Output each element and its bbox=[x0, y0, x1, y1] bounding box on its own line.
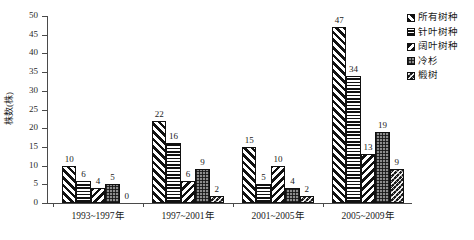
bar bbox=[346, 76, 360, 203]
x-axis-category-label: 1993~1997年 bbox=[53, 211, 143, 221]
y-tick-label: 35 bbox=[16, 67, 38, 76]
x-tick bbox=[53, 203, 54, 207]
y-tick bbox=[42, 203, 47, 204]
y-tick-label: 40 bbox=[16, 48, 38, 57]
x-axis-category-label: 2005~2009年 bbox=[323, 211, 413, 221]
legend-label: 针叶树种 bbox=[418, 28, 458, 37]
bar-value-label: 9 bbox=[386, 158, 408, 167]
y-tick-label: 0 bbox=[16, 198, 38, 207]
y-tick bbox=[42, 110, 47, 111]
y-tick-label: 5 bbox=[16, 179, 38, 188]
legend-swatch-icon bbox=[407, 14, 415, 22]
y-tick bbox=[42, 166, 47, 167]
bar bbox=[256, 184, 270, 203]
x-axis-category-label: 2001~2005年 bbox=[233, 211, 323, 221]
y-tick bbox=[42, 147, 47, 148]
legend-item: 冷杉 bbox=[407, 55, 458, 68]
legend-label: 冷杉 bbox=[418, 57, 438, 66]
legend-swatch-icon bbox=[407, 72, 415, 80]
legend-swatch-icon bbox=[407, 57, 415, 65]
bar-value-label: 47 bbox=[328, 16, 350, 25]
bar bbox=[332, 27, 346, 203]
bar bbox=[181, 181, 195, 203]
legend-item: 阔叶树种 bbox=[407, 40, 458, 53]
bar-group: 2216692 bbox=[152, 16, 230, 203]
bar-group: 1551042 bbox=[242, 16, 320, 203]
bar-value-label: 10 bbox=[58, 155, 80, 164]
legend-item: 所有树种 bbox=[407, 11, 458, 24]
y-tick bbox=[42, 184, 47, 185]
bar bbox=[390, 169, 404, 203]
bar-value-label: 10 bbox=[267, 155, 289, 164]
bar-group: 473413199 bbox=[332, 16, 410, 203]
bar-value-label: 34 bbox=[342, 65, 364, 74]
x-axis-line bbox=[47, 203, 412, 204]
bar-value-label: 9 bbox=[191, 158, 213, 167]
y-tick-label: 20 bbox=[16, 123, 38, 132]
legend-item: 针叶树种 bbox=[407, 26, 458, 39]
bar-value-label: 2 bbox=[206, 185, 228, 194]
bar-chart: 株数(株) 50454035302520151050 1064502216692… bbox=[0, 0, 474, 240]
bar-group: 106450 bbox=[62, 16, 140, 203]
y-tick bbox=[42, 53, 47, 54]
bar-value-label: 15 bbox=[238, 136, 260, 145]
y-tick-label: 30 bbox=[16, 86, 38, 95]
chart-legend: 所有树种针叶树种阔叶树种冷杉椴树 bbox=[407, 11, 458, 84]
y-tick-label: 45 bbox=[16, 30, 38, 39]
legend-swatch-icon bbox=[407, 43, 415, 51]
legend-label: 所有树种 bbox=[418, 13, 458, 22]
bar-value-label: 19 bbox=[371, 121, 393, 130]
bar-value-label: 5 bbox=[101, 173, 123, 182]
legend-label: 阔叶树种 bbox=[418, 42, 458, 51]
x-tick bbox=[323, 203, 324, 207]
bar-value-label: 0 bbox=[116, 192, 138, 201]
legend-swatch-icon bbox=[407, 28, 415, 36]
y-tick-label: 25 bbox=[16, 105, 38, 114]
y-tick-label: 10 bbox=[16, 161, 38, 170]
bar bbox=[375, 132, 389, 203]
legend-item: 椴树 bbox=[407, 69, 458, 82]
x-axis-category-label: 1997~2001年 bbox=[143, 211, 233, 221]
y-tick bbox=[42, 35, 47, 36]
bar bbox=[210, 196, 224, 203]
plot-area: 10645022166921551042473413199 bbox=[48, 16, 412, 203]
bar-value-label: 16 bbox=[162, 132, 184, 141]
bar bbox=[91, 188, 105, 203]
bar bbox=[300, 196, 314, 203]
bar-value-label: 22 bbox=[148, 110, 170, 119]
y-tick bbox=[42, 16, 47, 17]
bar bbox=[361, 154, 375, 203]
y-tick bbox=[42, 72, 47, 73]
y-tick-label: 50 bbox=[16, 11, 38, 20]
x-tick bbox=[233, 203, 234, 207]
x-tick bbox=[143, 203, 144, 207]
bar-value-label: 2 bbox=[296, 185, 318, 194]
y-axis-title: 株数(株) bbox=[2, 73, 15, 145]
y-tick bbox=[42, 128, 47, 129]
y-tick-label: 15 bbox=[16, 142, 38, 151]
y-tick bbox=[42, 91, 47, 92]
legend-label: 椴树 bbox=[418, 71, 438, 80]
